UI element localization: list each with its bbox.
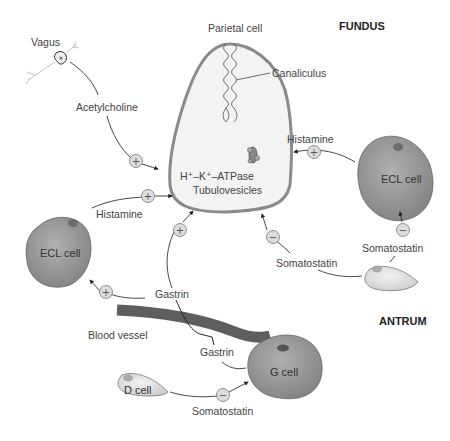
tubulovesicles-label: Tubulovesicles [193, 184, 262, 196]
acetylcholine-label: Acetylcholine [76, 101, 138, 113]
vagus-label: Vagus [31, 36, 60, 48]
histamine-left-label: Histamine [96, 208, 143, 220]
somatostatin-parietal-path-lower [318, 270, 362, 277]
d-cell-fundus [365, 266, 418, 291]
svg-text:−: − [269, 232, 277, 243]
d-cell-label: D cell [124, 384, 152, 396]
somatostatin-ecl-label: Somatostatin [362, 242, 423, 254]
acetylcholine-path-upper [70, 62, 98, 95]
plus-sign-histamine-right: + [308, 146, 321, 159]
somatostatin-parietal-label: Somatostatin [276, 257, 337, 269]
gastrin-ecl-arrow [90, 280, 100, 291]
ecl-cell-antrum-label: ECL cell [40, 247, 81, 259]
svg-text:−: − [219, 390, 227, 401]
svg-text:+: + [310, 147, 318, 158]
svg-text:+: + [176, 225, 184, 236]
gastrin-parietal-arrow [183, 211, 193, 222]
somatostatin-gcell-label: Somatostatin [192, 405, 253, 417]
antrum-label: ANTRUM [379, 315, 427, 327]
gastrin-gcell-path [222, 362, 246, 369]
histamine-right-path [294, 150, 355, 162]
svg-text:−: − [399, 225, 407, 236]
g-cell-label: G cell [270, 366, 298, 378]
plus-sign-gastrin-ecl: + [100, 286, 113, 299]
plus-sign-acetylcholine: + [130, 155, 143, 168]
h-k-atpase-label: H⁺–K⁺–ATPase [180, 170, 254, 182]
somatostatin-parietal-arrow [262, 214, 267, 230]
somatostatin-ecl-path [390, 256, 395, 262]
parietal-cell-label: Parietal cell [208, 22, 262, 34]
minus-sign-somatostatin-gcell: − [217, 389, 230, 402]
histamine-left-path [92, 197, 146, 208]
plus-sign-histamine-left: + [142, 190, 155, 203]
gastric-acid-regulation-diagram: FUNDUS ANTRUM Parietal cell Canaliculus … [0, 0, 450, 441]
gastrin-ecl-path [110, 294, 145, 298]
acetylcholine-arrow [142, 164, 158, 169]
somatostatin-gcell-path [170, 392, 218, 397]
somatostatin-gcell-arrow [229, 382, 248, 392]
gastrin-label-upper: Gastrin [155, 288, 189, 300]
minus-sign-somatostatin-ecl: − [397, 224, 410, 237]
plus-sign-gastrin-parietal: + [174, 224, 187, 237]
acetylcholine-path-lower [107, 116, 131, 158]
svg-text:+: + [132, 156, 140, 167]
ecl-cell-fundus-label: ECL cell [381, 173, 422, 185]
canaliculus-label: Canaliculus [272, 67, 326, 79]
svg-text:+: + [102, 287, 110, 298]
svg-text:+: + [144, 191, 152, 202]
gastrin-parietal-path [167, 230, 175, 288]
histamine-right-label: Histamine [287, 133, 334, 145]
fundus-label: FUNDUS [339, 20, 385, 32]
blood-vessel-label: Blood vessel [88, 329, 148, 341]
minus-sign-somatostatin-parietal: − [267, 231, 280, 244]
gastrin-label-lower: Gastrin [200, 346, 234, 358]
